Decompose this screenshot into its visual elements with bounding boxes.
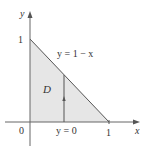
y-axis-arrow-icon xyxy=(28,11,33,18)
region-label: D xyxy=(42,83,51,95)
x-tick-label-1: 1 xyxy=(106,127,111,138)
y-tick-label-1: 1 xyxy=(18,34,23,45)
x-axis-arrow-icon xyxy=(133,120,140,125)
curve-label: y = 1 − x xyxy=(57,48,93,59)
x-axis-label: x xyxy=(134,125,140,136)
bottom-line-label: y = 0 xyxy=(56,125,77,136)
y-axis-label: y xyxy=(19,8,25,19)
region-diagram: y 1 y = 1 − x D 0 y = 0 1 x xyxy=(0,0,147,150)
origin-label: 0 xyxy=(19,125,24,136)
